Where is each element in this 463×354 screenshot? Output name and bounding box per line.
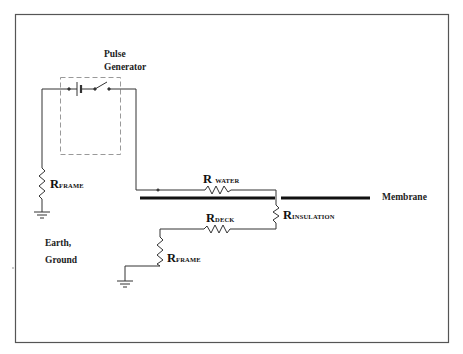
r-subscript: FRAME: [59, 182, 84, 189]
r-subscript: WATER: [215, 177, 239, 184]
r-frame-left-label: RFRAME: [50, 178, 84, 191]
resistor-r-frame-left: [39, 168, 45, 199]
r-water-label: R WATER: [203, 173, 240, 186]
switch-icon: [94, 82, 110, 90]
r-symbol: R: [167, 251, 176, 265]
r-symbol: R: [206, 211, 215, 225]
node-dot: [157, 189, 159, 191]
resistor-r-insulation: [273, 205, 279, 223]
r-subscript: FRAME: [176, 256, 201, 263]
r-subscript: INSULATION: [292, 213, 335, 220]
pulse-generator-label-1: Pulse: [104, 50, 126, 60]
r-symbol: R: [203, 172, 212, 186]
resistor-r-deck: [204, 225, 230, 233]
ground-label: Ground: [45, 256, 77, 266]
r-deck-label: RDECK: [206, 212, 235, 225]
r-subscript: DECK: [215, 216, 235, 223]
stray-mark: [12, 267, 13, 268]
earth-label: Earth,: [45, 239, 71, 249]
ground-icon-left: [34, 212, 50, 218]
resistor-r-frame-right: [157, 237, 163, 266]
ground-icon-right: [117, 281, 133, 287]
r-frame-right-label: RFRAME: [167, 252, 201, 265]
resistor-r-water: [205, 186, 231, 194]
r-symbol: R: [50, 177, 59, 191]
battery-icon: [77, 82, 81, 96]
membrane-label: Membrane: [382, 193, 427, 203]
pulse-generator-label-2: Generator: [104, 63, 146, 73]
r-insulation-label: RINSULATION: [283, 209, 335, 222]
r-symbol: R: [283, 208, 292, 222]
